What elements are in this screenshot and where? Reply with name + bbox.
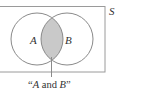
caption-close-quote: ” (66, 79, 71, 90)
intersection-caption: “A and B” (28, 79, 71, 90)
caption-and: and (39, 79, 59, 90)
set-a-label: A (29, 34, 37, 46)
universe-label: S (109, 5, 115, 17)
venn-diagram: A B S “A and B” (0, 0, 155, 91)
set-b-label: B (65, 34, 72, 46)
